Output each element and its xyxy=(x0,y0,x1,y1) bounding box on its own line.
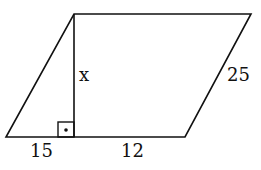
parallelogram xyxy=(6,14,251,137)
height-label: x xyxy=(79,64,89,85)
side-label: 25 xyxy=(227,64,250,85)
base-left-label: 15 xyxy=(30,140,53,161)
parallelogram-diagram: x 25 15 12 xyxy=(0,0,261,170)
base-right-label: 12 xyxy=(121,140,144,161)
right-angle-dot xyxy=(64,128,68,132)
